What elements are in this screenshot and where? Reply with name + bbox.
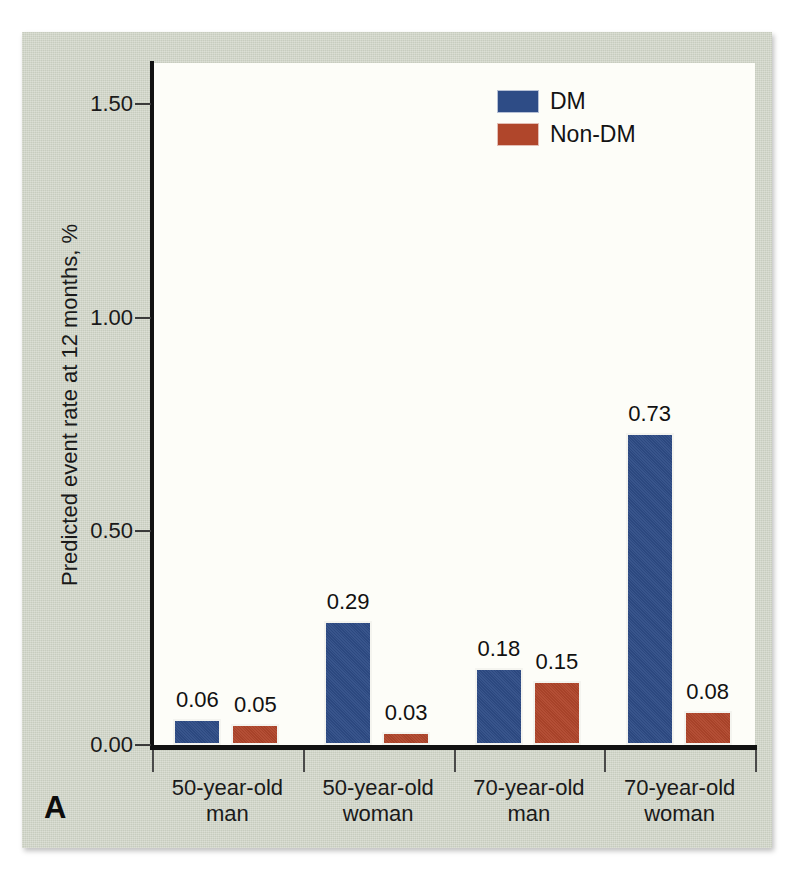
x-axis-category-label: 50-year-oldwoman [303,775,454,827]
legend-swatch-dm [497,90,539,113]
y-axis-tick [135,317,151,319]
chart-legend: DMNon-DM [497,88,636,154]
bar-value-label: 0.05 [215,694,295,716]
x-axis-separator [454,750,456,772]
x-axis-separator [303,750,305,772]
x-axis-separator [152,750,154,772]
bar-non-dm-group-3 [533,681,581,745]
legend-swatch-non-dm [497,123,539,146]
y-axis-tick [135,103,151,105]
x-axis-category-label: 50-year-oldman [152,775,303,827]
legend-item: DM [497,88,636,114]
x-axis-category-line: 50-year-old [303,775,454,801]
y-axis-tick [135,744,151,746]
x-axis-separator [755,750,757,772]
y-axis-line [150,61,154,747]
bar-value-label: 0.15 [517,651,597,673]
bar-value-label: 0.73 [610,403,690,425]
figure-panel: 0.000.501.001.50 Predicted event rate at… [22,32,772,848]
x-axis-category-line: man [152,801,303,827]
x-axis-separator [604,750,606,772]
bar-non-dm-group-1 [231,724,279,745]
bar-dm-group-2 [324,621,372,745]
y-axis-tick [135,530,151,532]
bar-value-label: 0.08 [668,681,748,703]
bar-value-label: 0.29 [308,591,388,613]
legend-item: Non-DM [497,121,636,147]
bar-dm-group-3 [475,668,523,745]
x-axis-category-line: 70-year-old [454,775,605,801]
x-axis-category-line: man [454,801,605,827]
x-axis-category-line: 50-year-old [152,775,303,801]
x-axis-category-label: 70-year-oldwoman [604,775,755,827]
bar-value-label: 0.03 [366,702,446,724]
bar-non-dm-group-2 [382,732,430,745]
x-axis-category-line: woman [303,801,454,827]
bar-dm-group-4 [626,433,674,745]
y-axis-tick-label: 0.00 [63,734,133,756]
x-axis-category-line: 70-year-old [604,775,755,801]
x-axis-category-label: 70-year-oldman [454,775,605,827]
y-axis-title: Predicted event rate at 12 months, % [57,75,83,735]
bar-non-dm-group-4 [684,711,732,745]
bar-dm-group-1 [173,719,221,745]
x-axis-category-line: woman [604,801,755,827]
legend-label: Non-DM [550,123,636,146]
legend-label: DM [550,90,586,113]
panel-label: A [44,792,66,823]
